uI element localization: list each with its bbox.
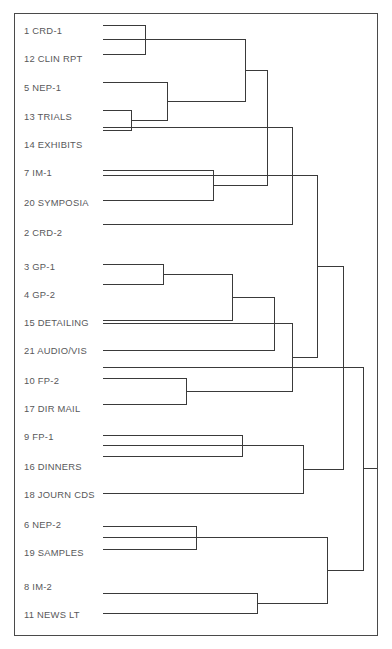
leaf-label: 10 FP-2 <box>24 375 59 386</box>
dendrogram-figure: 1 CRD-112 CLIN RPT5 NEP-113 TRIALS14 EXH… <box>0 0 392 649</box>
leaf-label: 12 CLIN RPT <box>24 53 83 64</box>
leaf-label: 2 CRD-2 <box>24 227 62 238</box>
leaf-label: 9 FP-1 <box>24 431 54 442</box>
leaf-label: 1 CRD-1 <box>24 25 62 36</box>
leaf-label: 17 DIR MAIL <box>24 403 80 414</box>
leaf-label: 15 DETAILING <box>24 317 89 328</box>
dendrogram-links <box>103 26 377 614</box>
leaf-label: 6 NEP-2 <box>24 519 61 530</box>
leaf-label: 7 IM-1 <box>24 167 52 178</box>
leaf-label: 20 SYMPOSIA <box>24 197 89 208</box>
leaf-label: 19 SAMPLES <box>24 547 84 558</box>
leaf-label: 8 IM-2 <box>24 581 52 592</box>
leaf-label: 3 GP-1 <box>24 261 55 272</box>
leaf-label: 11 NEWS LT <box>24 609 80 620</box>
leaf-label: 14 EXHIBITS <box>24 139 83 150</box>
leaf-label: 13 TRIALS <box>24 111 72 122</box>
leaf-label: 16 DINNERS <box>24 461 82 472</box>
leaf-label: 18 JOURN CDS <box>24 489 95 500</box>
leaf-label: 5 NEP-1 <box>24 82 61 93</box>
leaf-label: 4 GP-2 <box>24 289 55 300</box>
leaf-label: 21 AUDIO/VIS <box>24 345 87 356</box>
